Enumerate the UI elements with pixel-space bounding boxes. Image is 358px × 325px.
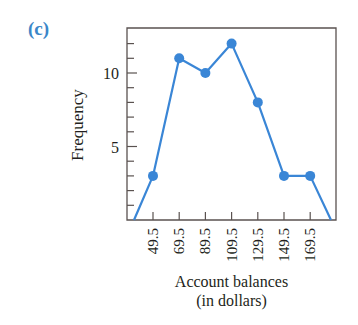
y-tick-label: 10 [103, 65, 119, 82]
data-point-marker [148, 171, 158, 181]
plot-frame [127, 28, 336, 220]
y-axis-label: Frequency [68, 75, 88, 175]
data-point-marker [174, 53, 184, 63]
x-tick-label: 149.5 [276, 228, 292, 262]
y-tick-label: 5 [111, 139, 119, 156]
x-axis-label-line2: (in dollars) [127, 291, 336, 310]
x-tick-label: 69.5 [171, 228, 187, 254]
data-point-marker [253, 97, 263, 107]
data-point-marker [200, 68, 210, 78]
data-point-marker [279, 171, 289, 181]
frequency-line [134, 44, 331, 220]
x-tick-label: 109.5 [224, 228, 240, 262]
x-tick-label: 89.5 [197, 228, 213, 254]
x-tick-label: 129.5 [250, 228, 266, 262]
data-point-marker [227, 39, 237, 49]
x-axis-label: Account balances (in dollars) [127, 272, 336, 310]
x-tick-label: 49.5 [145, 228, 161, 254]
data-point-marker [305, 171, 315, 181]
x-tick-label: 169.5 [302, 228, 318, 262]
x-axis-label-line1: Account balances [127, 272, 336, 291]
